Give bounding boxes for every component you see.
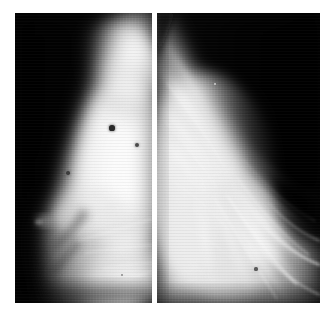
mammogram-figure	[0, 0, 333, 319]
right-mammogram-panel[interactable]	[157, 13, 320, 303]
right-mammogram-image	[157, 13, 320, 303]
left-mammogram-panel[interactable]	[15, 13, 152, 303]
left-mammogram-image	[15, 13, 152, 303]
